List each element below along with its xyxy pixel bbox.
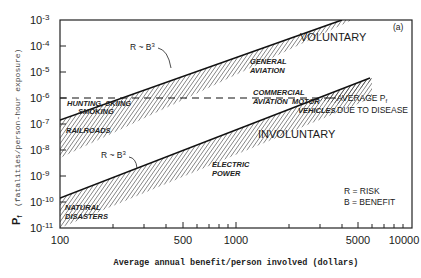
x-tick-labels: 100 500 1000 5000 10000	[51, 234, 419, 246]
svg-text:10-3: 10-3	[30, 13, 50, 26]
voluntary-label: VOLUNTARY	[300, 31, 367, 43]
svg-text:10-6: 10-6	[30, 91, 50, 104]
rb3-lower-label: R ~ B3	[101, 150, 127, 160]
y-tick-labels: 10-3 10-4 10-5 10-6 10-7 10-8 10-9 10-10…	[30, 13, 54, 234]
panel-label: (a)	[393, 22, 404, 32]
svg-text:500: 500	[174, 234, 192, 246]
x-axis-ticks	[113, 222, 403, 228]
svg-text:1000: 1000	[224, 234, 248, 246]
rb3-upper-label: R ~ B3	[130, 42, 156, 52]
svg-text:10-7: 10-7	[30, 117, 50, 130]
svg-text:10-11: 10-11	[30, 221, 54, 234]
electric-power-label: ELECTRICPOWER	[212, 160, 250, 178]
svg-text:100: 100	[51, 234, 69, 246]
svg-text:(fatalities/person-hour exposu: (fatalities/person-hour exposure)	[13, 49, 22, 207]
risk-benefit-chart: 10-3 10-4 10-5 10-6 10-7 10-8 10-9 10-10…	[0, 0, 421, 278]
svg-text:Pf: Pf	[10, 215, 23, 225]
svg-text:10-5: 10-5	[30, 65, 50, 78]
legend-benefit: B = BENEFIT	[344, 197, 395, 207]
svg-text:5000: 5000	[346, 234, 370, 246]
rb3-lower-arrow	[129, 157, 137, 168]
svg-text:10-8: 10-8	[30, 143, 50, 156]
disease-label: AVERAGE Pf	[337, 93, 388, 104]
svg-text:10-4: 10-4	[30, 39, 50, 52]
railroads-label: RAILROADS	[66, 126, 111, 135]
y-axis-ticks	[60, 46, 66, 202]
smoking-label: SMOKING	[78, 107, 114, 116]
legend-risk: R = RISK	[344, 186, 380, 196]
rb3-upper-arrow	[158, 48, 171, 68]
involuntary-label: INVOLUNTARY	[258, 128, 336, 140]
disease-label-line2: DUE TO DISEASE	[337, 105, 408, 115]
svg-text:10-10: 10-10	[30, 195, 54, 208]
general-aviation-label: GENERALAVIATION	[249, 57, 287, 75]
svg-text:10-9: 10-9	[30, 169, 50, 182]
svg-text:10000: 10000	[389, 234, 420, 246]
x-axis-title: Average annual benefit/person involved (…	[114, 258, 359, 268]
y-axis-title: Pf (fatalities/person-hour exposure)	[10, 49, 23, 225]
